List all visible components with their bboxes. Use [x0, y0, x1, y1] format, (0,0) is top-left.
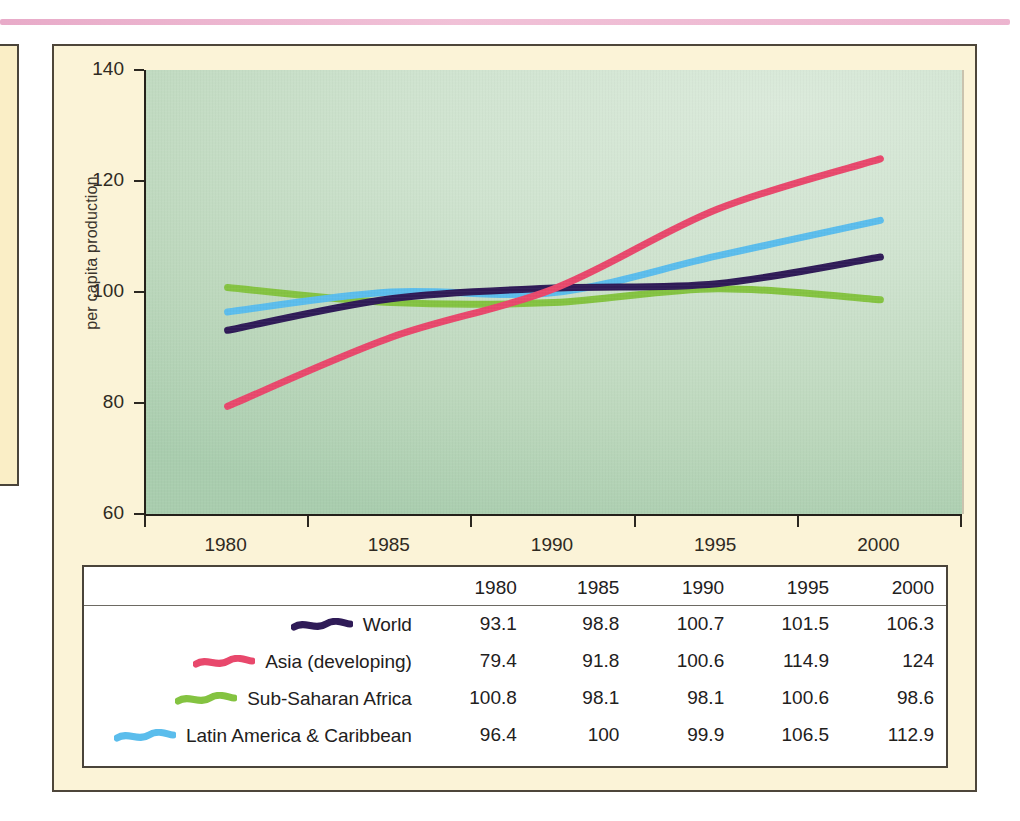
table-value-cell: 98.1: [529, 680, 632, 717]
x-tick-label: 1995: [670, 534, 760, 556]
table-series-label: World: [363, 614, 412, 635]
data-table: 19801985199019952000 World93.198.8100.71…: [84, 567, 946, 754]
x-tick-label: 1980: [181, 534, 271, 556]
y-tick-mark: [134, 180, 144, 182]
figure-panel: per capita production 1401201008060 1980…: [52, 44, 977, 792]
table-row: Latin America & Caribbean96.410099.9106.…: [84, 717, 946, 754]
table-value-cell: 79.4: [424, 643, 529, 680]
table-series-label: Asia (developing): [265, 651, 412, 672]
table-header-row: 19801985199019952000: [84, 567, 946, 606]
table-row: Sub-Saharan Africa100.898.198.1100.698.6: [84, 680, 946, 717]
series-line: [228, 220, 881, 312]
x-tick-mark: [307, 516, 309, 527]
x-tick-mark: [960, 516, 962, 527]
table-series-cell: Latin America & Caribbean: [84, 717, 424, 754]
x-tick-label: 1990: [507, 534, 597, 556]
legend-swatch-icon: [175, 692, 237, 706]
y-tick-mark: [134, 291, 144, 293]
table-value-cell: 100.6: [736, 680, 841, 717]
y-tick-label: 100: [70, 280, 124, 302]
table-header: 19801985199019952000: [84, 567, 946, 606]
x-tick-mark: [144, 516, 146, 527]
table-value-cell: 93.1: [424, 606, 529, 643]
table-value-cell: 124: [841, 643, 946, 680]
table-series-cell: Asia (developing): [84, 643, 424, 680]
table-row: Asia (developing)79.491.8100.6114.9124: [84, 643, 946, 680]
legend-swatch-icon: [193, 655, 255, 669]
legend-swatch-icon: [291, 618, 353, 632]
table-value-cell: 100.7: [631, 606, 736, 643]
y-tick-label: 60: [70, 502, 124, 524]
adjacent-panel-fragment: [0, 44, 19, 486]
x-tick-label: 1985: [344, 534, 434, 556]
table-value-cell: 106.5: [736, 717, 841, 754]
table-value-cell: 98.8: [529, 606, 632, 643]
figure-root: per capita production 1401201008060 1980…: [0, 0, 1020, 821]
plot-right-edge: [962, 70, 964, 514]
x-tick-mark: [797, 516, 799, 527]
table-value-cell: 100.6: [631, 643, 736, 680]
table-value-cell: 101.5: [736, 606, 841, 643]
y-tick-mark: [134, 513, 144, 515]
y-tick-label: 140: [70, 58, 124, 80]
table-body: World93.198.8100.7101.5106.3Asia (develo…: [84, 606, 946, 754]
x-tick-mark: [634, 516, 636, 527]
series-line: [228, 159, 881, 407]
line-chart: per capita production 1401201008060 1980…: [54, 46, 979, 546]
y-tick-mark: [134, 69, 144, 71]
table-column-header: 1990: [631, 567, 736, 606]
x-tick-mark: [470, 516, 472, 527]
table-column-header: 1980: [424, 567, 529, 606]
table-column-header: 1985: [529, 567, 632, 606]
table-value-cell: 106.3: [841, 606, 946, 643]
table-series-label: Latin America & Caribbean: [186, 725, 412, 746]
table-series-cell: Sub-Saharan Africa: [84, 680, 424, 717]
table-value-cell: 98.1: [631, 680, 736, 717]
table-value-cell: 114.9: [736, 643, 841, 680]
table-series-label: Sub-Saharan Africa: [247, 688, 412, 709]
table-value-cell: 96.4: [424, 717, 529, 754]
table-value-cell: 91.8: [529, 643, 632, 680]
table-row: World93.198.8100.7101.5106.3: [84, 606, 946, 643]
table-series-cell: World: [84, 606, 424, 643]
table-value-cell: 100: [529, 717, 632, 754]
y-tick-label: 120: [70, 169, 124, 191]
table-value-cell: 98.6: [841, 680, 946, 717]
table-value-cell: 100.8: [424, 680, 529, 717]
table-corner-header: [84, 567, 424, 606]
table-value-cell: 99.9: [631, 717, 736, 754]
table-column-header: 1995: [736, 567, 841, 606]
table-value-cell: 112.9: [841, 717, 946, 754]
series-lines: [146, 70, 962, 514]
legend-swatch-icon: [114, 729, 176, 743]
decorative-pink-rule: [0, 19, 1010, 25]
x-tick-label: 2000: [833, 534, 923, 556]
y-tick-label: 80: [70, 391, 124, 413]
data-table-card: 19801985199019952000 World93.198.8100.71…: [82, 565, 948, 768]
plot-area: [144, 70, 962, 516]
table-column-header: 2000: [841, 567, 946, 606]
y-tick-mark: [134, 402, 144, 404]
